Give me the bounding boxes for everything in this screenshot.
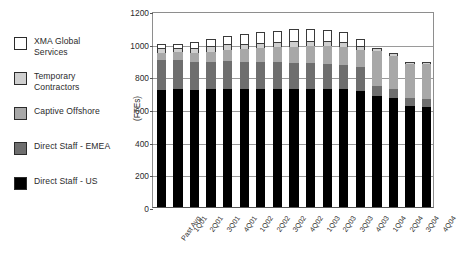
bar-segment-direct-staff-emea — [190, 62, 199, 91]
bar-segment-captive-offshore — [223, 50, 232, 61]
bar-segment-direct-staff-us — [389, 98, 398, 207]
bar-segment-direct-staff-emea — [223, 61, 232, 88]
y-tick-label: 400 — [135, 139, 149, 149]
bar-segment-direct-staff-us — [339, 89, 348, 207]
bar-segment-direct-staff-us — [372, 96, 381, 207]
bar-segment-captive-offshore — [206, 52, 215, 62]
legend-item-temporary-contractors: Temporary Contractors — [14, 71, 142, 97]
legend-swatch-direct-staff-us — [14, 177, 27, 190]
legend-swatch-xma-global-services — [14, 37, 27, 50]
bar-segment-xma-global-services — [356, 39, 365, 46]
bar-segment-direct-staff-emea — [206, 62, 215, 90]
bar-group — [153, 13, 433, 207]
legend-label-direct-staff-emea: Direct Staff - EMEA — [34, 141, 110, 152]
chart-figure: XMA Global ServicesTemporary Contractors… — [0, 0, 468, 276]
bar-segment-captive-offshore — [273, 47, 282, 62]
x-axis-label: 3Q02 — [291, 214, 308, 234]
bar-segment-xma-global-services — [273, 31, 282, 42]
bar-segment-direct-staff-emea — [389, 89, 398, 98]
x-axis-label: 4Q01 — [241, 214, 258, 234]
bar-segment-direct-staff-us — [240, 89, 249, 207]
bar-4q04 — [422, 62, 431, 207]
bar-1q01 — [173, 44, 182, 207]
bar-segment-xma-global-services — [306, 29, 315, 41]
legend-item-direct-staff-us: Direct Staff - US — [14, 176, 142, 202]
bar-3q04 — [405, 62, 414, 207]
bar-segment-captive-offshore — [289, 47, 298, 63]
x-axis-label: 2Q02 — [274, 214, 291, 234]
bar-segment-captive-offshore — [240, 49, 249, 62]
bar-segment-xma-global-services — [256, 32, 265, 43]
bar-4q03 — [356, 39, 365, 207]
y-tick-label: 0 — [144, 204, 149, 214]
bar-segment-captive-offshore — [323, 46, 332, 64]
x-axis-label: 1Q04 — [390, 214, 407, 234]
x-axis-label: 2Q03 — [341, 214, 358, 234]
bar-segment-direct-staff-emea — [273, 62, 282, 88]
bar-segment-xma-global-services — [240, 34, 249, 44]
bar-1q02 — [240, 34, 249, 207]
legend-item-direct-staff-emea: Direct Staff - EMEA — [14, 141, 142, 167]
bar-segment-captive-offshore — [173, 52, 182, 60]
bar-segment-direct-staff-us — [356, 91, 365, 207]
bar-segment-captive-offshore — [389, 56, 398, 89]
legend-swatch-temporary-contractors — [14, 72, 27, 85]
bar-segment-direct-staff-emea — [405, 98, 414, 106]
chart-legend: XMA Global ServicesTemporary Contractors… — [14, 36, 142, 211]
bar-segment-xma-global-services — [206, 39, 215, 47]
bar-2q01 — [190, 42, 199, 207]
x-axis-label: 1Q03 — [324, 214, 341, 234]
bar-segment-direct-staff-emea — [356, 67, 365, 91]
bar-segment-direct-staff-emea — [339, 65, 348, 90]
bar-segment-captive-offshore — [356, 50, 365, 68]
bar-segment-direct-staff-emea — [306, 63, 315, 88]
x-axis-label: 1Q02 — [258, 214, 275, 234]
y-tick-label: 1200 — [130, 8, 149, 18]
x-axis-label: 2Q04 — [407, 214, 424, 234]
bar-segment-direct-staff-us — [223, 89, 232, 207]
bar-segment-captive-offshore — [157, 53, 166, 60]
legend-label-captive-offshore: Captive Offshore — [34, 106, 100, 117]
y-tick-label: 600 — [135, 106, 149, 116]
bar-3q01 — [206, 39, 215, 207]
bar-segment-direct-staff-emea — [372, 86, 381, 96]
x-axis-label: 4Q03 — [374, 214, 391, 234]
bar-segment-xma-global-services — [289, 29, 298, 41]
bar-2q03 — [323, 30, 332, 207]
bar-segment-captive-offshore — [422, 64, 431, 99]
bar-segment-captive-offshore — [190, 53, 199, 62]
bar-past-avg — [157, 44, 166, 207]
x-axis-label: 4Q02 — [308, 214, 325, 234]
x-axis-label: 2Q01 — [208, 214, 225, 234]
plot-area-wrapper: (FTEs) 020040060080010001200 Past Avg1Q0… — [152, 12, 452, 272]
bar-segment-xma-global-services — [339, 32, 348, 41]
legend-label-xma-global-services: XMA Global Services — [34, 36, 80, 57]
bar-segment-direct-staff-emea — [323, 64, 332, 89]
bar-segment-direct-staff-emea — [422, 99, 431, 106]
bar-segment-direct-staff-emea — [256, 62, 265, 88]
bar-segment-direct-staff-emea — [289, 63, 298, 89]
y-tick-label: 200 — [135, 171, 149, 181]
bar-2q02 — [256, 32, 265, 207]
bar-segment-xma-global-services — [223, 36, 232, 45]
bar-segment-captive-offshore — [256, 48, 265, 62]
bar-segment-captive-offshore — [405, 64, 414, 97]
bar-segment-xma-global-services — [323, 30, 332, 41]
bar-segment-direct-staff-us — [306, 89, 315, 207]
legend-label-direct-staff-us: Direct Staff - US — [34, 176, 98, 187]
bar-segment-direct-staff-emea — [240, 62, 249, 89]
bar-3q03 — [339, 32, 348, 207]
bar-segment-direct-staff-us — [289, 89, 298, 207]
y-tick-label: 1000 — [130, 41, 149, 51]
bar-1q04 — [372, 48, 381, 207]
x-axis-label: 3Q03 — [357, 214, 374, 234]
bar-segment-direct-staff-emea — [157, 60, 166, 90]
plot-area: 020040060080010001200 — [152, 12, 434, 208]
legend-swatch-direct-staff-emea — [14, 142, 27, 155]
bar-segment-direct-staff-us — [405, 106, 414, 207]
bar-3q02 — [273, 31, 282, 207]
legend-swatch-captive-offshore — [14, 107, 27, 120]
x-axis-label: 3Q04 — [424, 214, 441, 234]
bar-4q02 — [289, 29, 298, 207]
x-axis-label: 4Q04 — [440, 214, 457, 234]
